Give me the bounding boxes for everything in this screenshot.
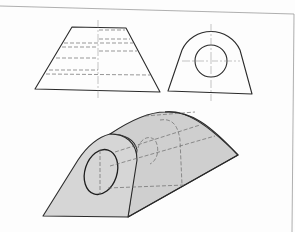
side-view — [168, 24, 252, 101]
isometric-view — [43, 112, 238, 217]
drawing-canvas — [0, 0, 295, 232]
front-view — [35, 20, 160, 99]
technical-drawing — [0, 0, 295, 232]
